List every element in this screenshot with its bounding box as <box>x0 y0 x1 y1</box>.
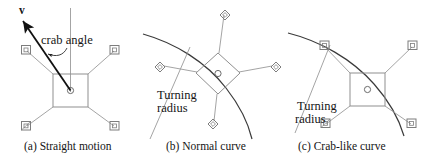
velocity-label: v <box>19 4 25 16</box>
panel-a-caption: (a) Straight motion <box>24 140 112 152</box>
wheel-front-right <box>110 46 119 55</box>
panel-c-chassis <box>350 73 385 106</box>
velocity-vector-arrow <box>23 21 71 91</box>
panel-b-center-pivot <box>215 70 221 76</box>
panel-c-legs <box>325 47 412 124</box>
panel-c-group: Turning radius <box>288 33 417 136</box>
panel-c-turning-radius-label-line2: radius <box>295 112 326 126</box>
crab-angle-label: crab angle <box>41 33 93 47</box>
panel-c-caption: (c) Crab-like curve <box>298 140 385 152</box>
wheel-rear-left <box>22 122 31 131</box>
panel-b-turning-radius-arc <box>143 34 252 139</box>
panel-b-caption: (b) Normal curve <box>166 140 246 152</box>
wheel-top <box>220 10 230 20</box>
panel-b-turning-radius-label-line2: radius <box>157 101 188 115</box>
panel-b-turning-radius-label-line1: Turning <box>157 88 198 102</box>
figure-root: v crab angle <box>0 0 429 167</box>
wheel-bottom <box>208 119 218 129</box>
wheel-rear-right <box>110 122 119 131</box>
panel-c-turning-radius-label-line1: Turning <box>297 99 338 113</box>
panel-a-group: v crab angle <box>19 4 119 130</box>
panel-c-wheels <box>320 41 417 128</box>
wheel-left <box>155 62 165 72</box>
panel-b-group: Turning radius <box>143 10 281 139</box>
wheel-rear-right <box>407 119 416 128</box>
crab-angle-arc <box>48 48 67 56</box>
panel-c-center-pivot <box>364 86 370 92</box>
wheel-front-right <box>408 41 417 50</box>
panel-b-chassis <box>196 53 240 94</box>
wheel-right <box>271 62 281 72</box>
